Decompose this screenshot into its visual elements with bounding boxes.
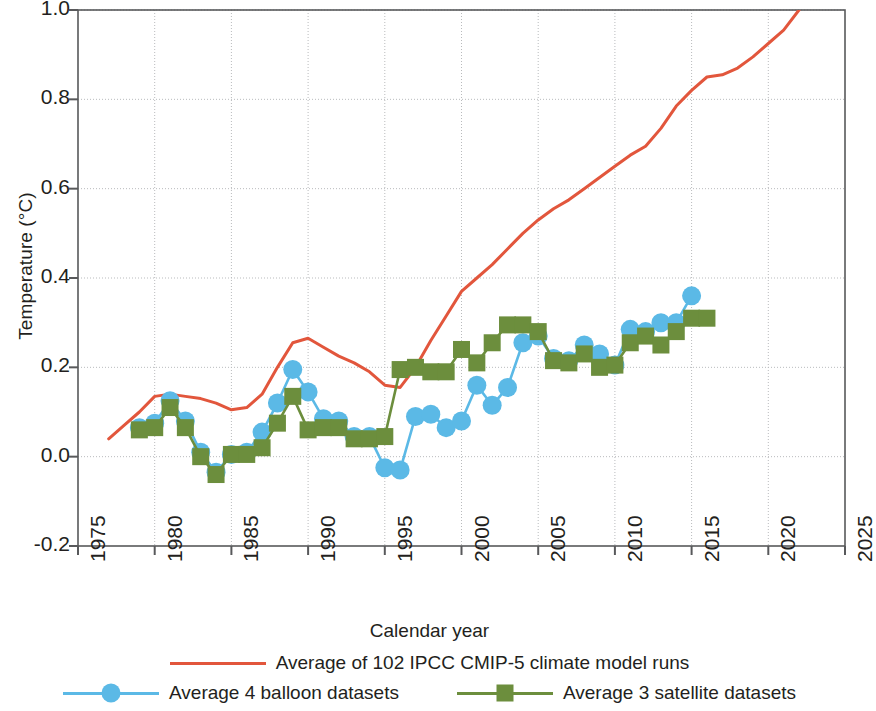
x-axis-tick-label: 2025 [854, 515, 875, 562]
legend-label-satellite: Average 3 satellite datasets [563, 682, 796, 704]
legend-marker-circle [101, 684, 120, 703]
legend-swatch-balloon-line [63, 684, 159, 702]
x-axis-tick-label: 2000 [471, 515, 492, 562]
legend-swatch-satellite-line [457, 684, 553, 702]
x-axis-tick-label: 2005 [547, 515, 568, 562]
legend-marker-square [496, 685, 513, 702]
legend-label-model: Average of 102 IPCC CMIP-5 climate model… [276, 652, 690, 674]
x-axis-tick-label: 1980 [164, 515, 185, 562]
x-axis-label: Calendar year [0, 620, 859, 642]
x-axis-tick-label: 1990 [317, 515, 338, 562]
legend-row-1: Average of 102 IPCC CMIP-5 climate model… [0, 648, 859, 678]
x-axis-tick-label: 1985 [240, 515, 261, 562]
x-axis-tick-label: 1975 [87, 515, 108, 562]
legend-item-model[interactable]: Average of 102 IPCC CMIP-5 climate model… [170, 652, 690, 674]
x-axis-tick-label: 2010 [624, 515, 645, 562]
chart-legend: Average of 102 IPCC CMIP-5 climate model… [0, 648, 859, 708]
x-axis-tick-label: 2015 [701, 515, 722, 562]
legend-swatch-model-line [170, 654, 266, 672]
legend-item-satellite[interactable]: Average 3 satellite datasets [457, 682, 796, 704]
x-axis-tick-label: 2020 [777, 515, 798, 562]
legend-label-balloon: Average 4 balloon datasets [169, 682, 399, 704]
legend-row-2: Average 4 balloon datasets Average 3 sat… [0, 678, 859, 708]
x-axis-tick-label: 1995 [394, 515, 415, 562]
legend-item-balloon[interactable]: Average 4 balloon datasets [63, 682, 399, 704]
